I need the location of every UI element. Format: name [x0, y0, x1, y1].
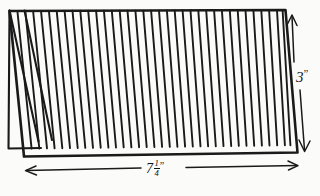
width-whole-value: 7 [146, 161, 153, 176]
width-dimension-label: 714” [146, 159, 164, 178]
height-dimension-label: 3” [296, 68, 308, 85]
height-unit-mark: ” [304, 67, 308, 79]
grate-bar-group [17, 10, 290, 148]
width-unit-mark: ” [160, 160, 164, 171]
sketch-canvas: 3” 714” [0, 0, 320, 196]
height-value: 3 [296, 69, 304, 85]
